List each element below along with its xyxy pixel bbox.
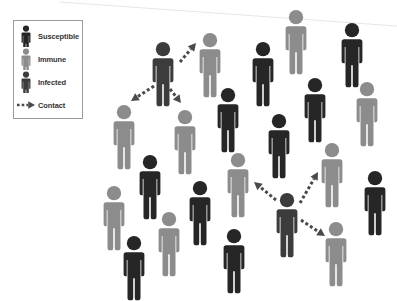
- legend-label: Infected: [38, 78, 66, 87]
- person-icon: [14, 25, 38, 47]
- person-immune-icon: [114, 105, 135, 169]
- person-immune-icon: [322, 143, 343, 207]
- legend-label: Immune: [38, 55, 66, 64]
- contact-arrow-icon: [131, 86, 154, 101]
- legend-item-contact: Contact: [14, 94, 84, 116]
- person-immune-icon: [159, 212, 180, 276]
- legend-item-infected: Infected: [14, 71, 84, 93]
- person-immune-icon: [104, 186, 125, 250]
- person-susceptible-icon: [365, 171, 386, 235]
- contact-arrow-icon: [254, 182, 276, 200]
- contact-arrow-icon: [180, 43, 196, 62]
- person-susceptible-icon: [253, 42, 274, 106]
- dashed-arrow-icon: [14, 94, 38, 116]
- person-immune-icon: [357, 82, 378, 146]
- contact-arrow-icon: [300, 172, 318, 203]
- person-immune-icon: [286, 10, 307, 74]
- person-susceptible-icon: [124, 236, 145, 300]
- legend-label: Contact: [38, 101, 65, 110]
- person-susceptible-icon: [140, 155, 161, 219]
- person-susceptible-icon: [305, 78, 326, 142]
- person-immune-icon: [200, 33, 221, 97]
- person-immune-icon: [326, 222, 347, 286]
- person-susceptible-icon: [218, 88, 239, 152]
- person-icon: [14, 71, 38, 93]
- contact-arrow-icon: [301, 220, 325, 236]
- legend: Susceptible Immune Infected Contact: [13, 20, 83, 119]
- legend-item-immune: Immune: [14, 48, 84, 70]
- person-immune-icon: [228, 153, 249, 217]
- person-immune-icon: [175, 110, 196, 174]
- person-susceptible-icon: [342, 23, 363, 87]
- person-susceptible-icon: [190, 181, 211, 245]
- person-icon: [14, 48, 38, 70]
- legend-item-susceptible: Susceptible: [14, 25, 84, 47]
- contact-arrow-icon: [170, 89, 181, 103]
- person-infected-icon: [277, 193, 298, 257]
- legend-label: Susceptible: [38, 32, 79, 41]
- person-susceptible-icon: [269, 114, 290, 178]
- person-susceptible-icon: [224, 229, 245, 293]
- person-infected-icon: [153, 42, 174, 106]
